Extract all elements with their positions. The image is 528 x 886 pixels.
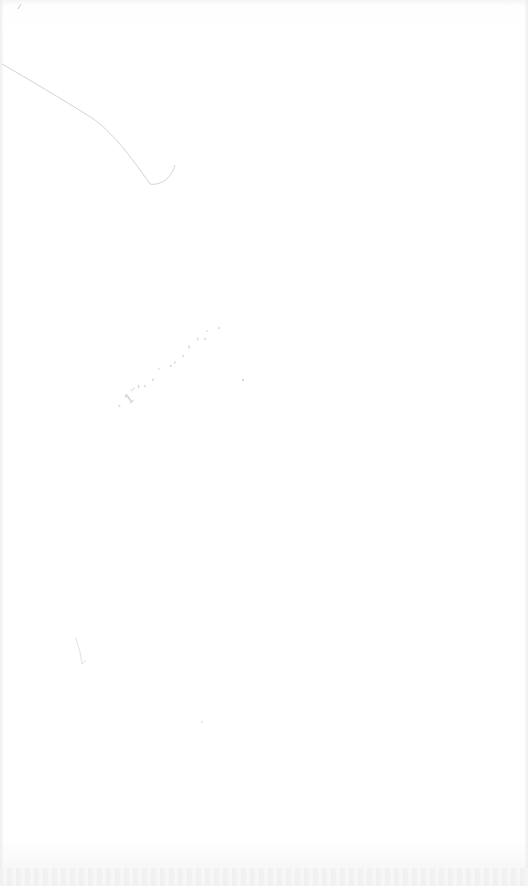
dot-mark: [201, 721, 203, 723]
pencil-marks: [0, 0, 528, 886]
scanned-page: · 1¨’· · ˙ ·· · ‘ ´·˙ ·: [0, 0, 528, 886]
dot-mark: [242, 379, 244, 381]
corner-tick-mark: [18, 4, 21, 9]
scan-bottom-edge: [0, 868, 528, 886]
diagonal-pencil-stroke: [2, 64, 175, 184]
faint-scribble-mark: [76, 638, 86, 664]
